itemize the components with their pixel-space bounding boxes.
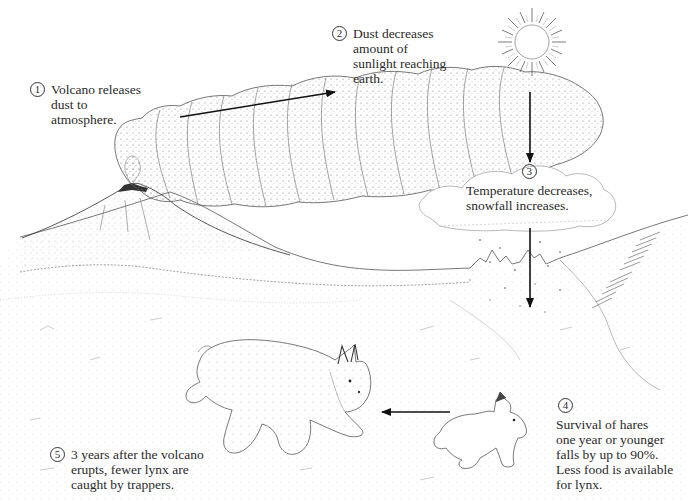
step-4-label: 4 Survival of hares one year or younger … xyxy=(556,398,673,492)
step-2-number: 2 xyxy=(332,26,347,41)
step-5-label: 5 3 years after the volcano erupts, fewe… xyxy=(50,447,204,492)
step-2-label: 2 Dust decreases amount of sunlight reac… xyxy=(332,26,446,86)
step-1-number: 1 xyxy=(30,82,45,97)
step-4-number: 4 xyxy=(558,398,573,413)
step-5-number: 5 xyxy=(50,447,65,462)
step-5-text: 3 years after the volcano erupts, fewer … xyxy=(71,447,204,492)
step-3-text: Temperature decreases, snowfall increase… xyxy=(466,183,592,213)
step-1-text: Volcano releases dust to atmosphere. xyxy=(51,82,141,127)
step-4-text: Survival of hares one year or younger fa… xyxy=(556,417,673,492)
sun-icon xyxy=(498,8,566,76)
step-2-text: Dust decreases amount of sunlight reachi… xyxy=(353,26,446,86)
step-3-label: 3 Temperature decreases, snowfall increa… xyxy=(466,164,592,213)
step-1-label: 1 Volcano releases dust to atmosphere. xyxy=(30,82,141,127)
step-3-number: 3 xyxy=(522,164,537,179)
